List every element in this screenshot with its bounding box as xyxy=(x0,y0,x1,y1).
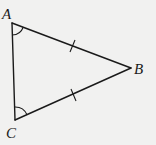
edge-ac xyxy=(12,23,15,120)
edge-ab xyxy=(12,23,131,68)
vertex-label-b: B xyxy=(134,61,143,77)
vertex-label-c: C xyxy=(6,125,17,141)
angle-arc-a xyxy=(12,27,23,35)
triangle-diagram: A B C xyxy=(0,0,156,145)
vertex-label-a: A xyxy=(1,6,12,22)
angle-arc-c xyxy=(15,107,27,115)
